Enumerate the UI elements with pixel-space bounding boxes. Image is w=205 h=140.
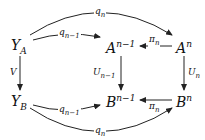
node-A-n-1: An−1 — [106, 40, 135, 55]
node-base: Y — [11, 93, 20, 109]
node-base: Y — [11, 37, 20, 53]
node-sup: n — [186, 39, 192, 49]
node-B-n-1: Bn−1 — [106, 94, 135, 109]
node-B-n: Bn — [176, 94, 192, 109]
node-sub: A — [20, 46, 27, 56]
label-pin-top: πn — [148, 35, 160, 47]
node-base: B — [176, 94, 186, 110]
node-base: A — [176, 40, 186, 56]
label-sub: n — [101, 130, 106, 138]
label-qn1-bot: qn−1 — [58, 105, 81, 117]
label-sub: n−1 — [65, 109, 80, 117]
label-sub: n — [155, 106, 160, 114]
label-sub: n — [196, 72, 201, 80]
node-sup: n−1 — [116, 39, 135, 49]
node-A-n: An — [176, 40, 192, 55]
label-qn-top: qn — [94, 7, 106, 19]
label-Un1: Un−1 — [92, 68, 116, 80]
node-base: A — [106, 40, 116, 56]
label-sub: n−1 — [65, 32, 80, 40]
label-base: V — [10, 67, 17, 77]
label-V: V — [9, 68, 18, 77]
label-Un: Un — [187, 68, 201, 80]
label-qn1-top: qn−1 — [58, 28, 81, 40]
label-qn-bot: qn — [94, 126, 106, 138]
label-sub: n — [155, 39, 160, 47]
node-Y-A: YA — [11, 38, 27, 56]
label-pin-bot: πn — [148, 102, 160, 114]
label-base: U — [93, 67, 101, 77]
label-sub: n — [101, 11, 106, 19]
node-sup: n−1 — [116, 93, 135, 103]
node-sub: B — [20, 102, 27, 112]
label-base: U — [188, 67, 196, 77]
node-base: B — [106, 94, 116, 110]
node-Y-B: YB — [11, 94, 27, 112]
label-sub: n−1 — [101, 72, 116, 80]
node-sup: n — [186, 93, 192, 103]
